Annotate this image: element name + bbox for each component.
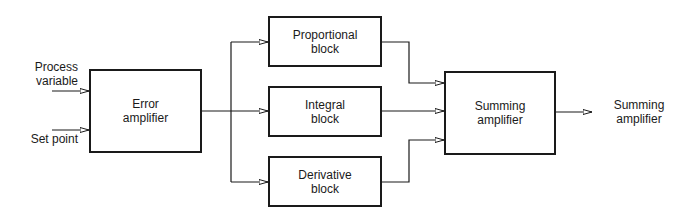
process-variable-line1: Process: [14, 60, 78, 74]
process-variable-line2: variable: [14, 74, 78, 88]
derivative-line1: Derivative: [298, 168, 351, 182]
proportional-block: Proportional block: [268, 16, 382, 67]
integral-line2: block: [305, 112, 345, 126]
proportional-line1: Proportional: [293, 28, 358, 42]
integral-block: Integral block: [268, 86, 382, 137]
set-point-line1: Set point: [31, 132, 78, 146]
error-amplifier-line1: Error: [123, 97, 168, 111]
derivative-block: Derivative block: [268, 156, 382, 207]
proportional-to-sum: [381, 42, 444, 83]
error-amplifier-block: Error amplifier: [89, 69, 202, 153]
proportional-line2: block: [293, 42, 358, 56]
output-line1: Summing: [599, 98, 679, 112]
output-label: Summing amplifier: [599, 98, 679, 126]
summing-amplifier-line1: Summing: [475, 99, 526, 113]
integral-line1: Integral: [305, 98, 345, 112]
process-variable-label: Process variable: [14, 60, 78, 88]
derivative-line2: block: [298, 182, 351, 196]
derivative-to-sum: [381, 140, 444, 182]
set-point-label: Set point: [8, 132, 78, 146]
summing-amplifier-block: Summing amplifier: [444, 71, 556, 155]
output-line2: amplifier: [599, 112, 679, 126]
error-amplifier-line2: amplifier: [123, 111, 168, 125]
summing-amplifier-line2: amplifier: [475, 113, 526, 127]
